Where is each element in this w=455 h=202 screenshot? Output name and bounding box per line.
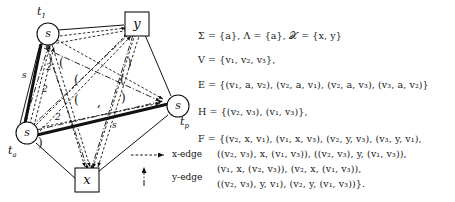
node-tp-label: tp (180, 116, 189, 130)
math-line-F-2: ((v₂, v₃), x, (v₁, v₃)), ((v₂, v₃), y, (… (217, 148, 407, 159)
edge-comma: , (97, 95, 101, 109)
node-tp-glyph: s (168, 99, 188, 112)
node-x-glyph: x (77, 172, 97, 187)
edge-label-s-bottom: s (112, 120, 117, 130)
node-t1-label: t1 (37, 6, 46, 20)
node-t1-glyph: s (38, 27, 58, 40)
edge-label-2-c: 2 (55, 112, 61, 122)
edge-label-2-a: 2 (46, 62, 52, 72)
edge-paren-3: ( (74, 73, 79, 87)
node-ta-label-sub: a (12, 151, 16, 159)
math-line-sigma: Σ = {a}, Λ = {a}, 𝒳 = {x, y} (198, 30, 342, 42)
edge-paren-7: ) (38, 136, 43, 150)
node-tp-label-sub: p (184, 122, 188, 130)
math-line-F-4: ((v₂, v₃), y, v₁), (v₂, y, (v₁, v₃))}. (217, 178, 365, 189)
math-line-F-1: F = {(v₂, x, v₁), (v₁, x, v₃), (v₂, y, v… (198, 133, 422, 144)
legend-symbols (131, 148, 175, 192)
node-ta-label: ta (8, 145, 17, 159)
edge-label-s-left: s (22, 70, 27, 80)
edge-paren-4: ( (120, 73, 125, 87)
node-t1-label-sub: 1 (41, 12, 45, 20)
math-line-E: E = {(v₁, a, v₂), (v₂, a, v₁), (v₂, a, v… (198, 79, 429, 90)
set-definitions: Σ = {a}, Λ = {a}, 𝒳 = {x, y} V = {v₁, v₂… (196, 0, 455, 202)
math-line-F-3: (v₁, x, (v₂, v₃)), (v₂, x, (v₁, v₃)), (217, 163, 361, 174)
edge-paren-2: ) (127, 56, 132, 70)
edge-paren-6: ) (121, 91, 126, 105)
edge-label-2-b: 2 (42, 84, 48, 94)
edge-paren-5: ( (74, 93, 79, 107)
node-ta-glyph: s (17, 126, 37, 139)
node-y-glyph: y (127, 16, 147, 31)
math-line-H: H = {(v₂, v₃), (v₁, v₃)}, (198, 106, 308, 117)
math-line-V: V = {v₁, v₂, v₃}, (198, 54, 275, 65)
edge-paren-1: ( (59, 56, 64, 70)
figure-root: s y s s x t1 tp ta s 2 2 2 s ( ) ( ( ( )… (0, 0, 455, 202)
